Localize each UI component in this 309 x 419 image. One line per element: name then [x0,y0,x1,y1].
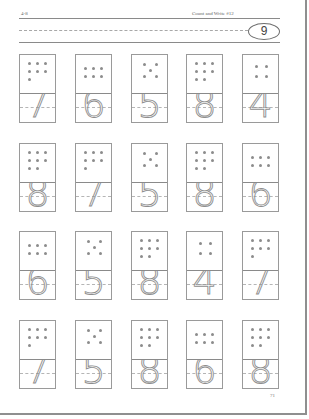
count-dot [265,65,268,68]
count-card: 6 [186,320,223,389]
count-dot [203,341,206,344]
traceable-numeral: 8 [20,183,55,212]
dot-count-area [76,232,111,271]
dot-count-area [76,321,111,360]
count-dot [265,75,268,78]
count-dot [195,341,198,344]
dot-count-area [132,144,167,183]
count-dot [203,78,206,81]
count-dot [195,333,198,336]
count-dot [100,151,103,154]
dot-count-area [76,144,111,183]
dot-count-area [132,321,167,360]
count-card: 8 [186,143,223,212]
count-card: 7 [19,320,56,389]
numeral-trace-area: 8 [187,94,222,123]
count-dot [209,242,212,245]
count-dot [93,246,96,249]
traceable-numeral: 4 [243,94,278,123]
count-dot [93,335,96,338]
count-dot [36,62,39,65]
numeral-trace-area: 8 [187,183,222,212]
dot-count-area [243,232,278,271]
worksheet-number-badge: 9 [248,23,280,40]
traceable-numeral: 6 [243,183,278,212]
count-dot [251,336,254,339]
count-dot [36,252,39,255]
numeral-trace-area: 6 [76,94,111,123]
count-dot [84,151,87,154]
traceable-numeral: 8 [132,271,167,300]
count-dot [44,70,47,73]
count-dot [211,70,214,73]
count-dot [100,75,103,78]
count-dot [36,328,39,331]
count-dot [87,252,90,255]
count-dot [36,167,39,170]
count-dot [84,159,87,162]
count-dot [267,247,270,250]
count-dot [28,252,31,255]
count-dot [92,159,95,162]
dot-count-area [132,55,167,94]
count-dot [99,329,102,332]
count-card: 8 [242,320,279,389]
count-card: 5 [75,320,112,389]
count-dot [44,159,47,162]
count-dot [259,239,262,242]
count-dot [251,156,254,159]
count-dot [36,159,39,162]
count-dot [259,156,262,159]
dot-count-area [243,144,278,183]
count-dot [143,75,146,78]
count-card: 5 [131,143,168,212]
count-dot [267,164,270,167]
traceable-numeral: 8 [187,94,222,123]
numeral-trace-area: 7 [20,360,55,389]
count-card: 7 [242,231,279,300]
worksheet-page: 4-8 Count and Write #12 9 76584875866584… [0,0,307,415]
numeral-trace-area: 8 [132,360,167,389]
count-dot [87,240,90,243]
count-dot [44,151,47,154]
count-dot [28,328,31,331]
count-dot [36,244,39,247]
traceable-numeral: 7 [76,183,111,212]
count-dot [28,244,31,247]
count-dot [36,336,39,339]
count-dot [92,67,95,70]
count-dot [140,336,143,339]
count-dot [211,159,214,162]
count-dot [209,252,212,255]
count-dot [203,70,206,73]
count-dot [99,240,102,243]
count-dot [211,151,214,154]
dot-count-area [187,321,222,360]
numeral-trace-area: 7 [243,271,278,300]
count-card: 5 [131,54,168,123]
count-dot [100,67,103,70]
count-dot [28,78,31,81]
count-dot [195,70,198,73]
count-dot [148,255,151,258]
numeral-trace-area: 8 [243,360,278,389]
count-dot [87,329,90,332]
count-card: 6 [19,231,56,300]
count-dot [148,239,151,242]
page-number: 71 [270,393,275,398]
count-dot [259,247,262,250]
traceable-numeral: 7 [243,271,278,300]
count-dot [140,344,143,347]
count-dot [143,152,146,155]
count-card: 8 [131,320,168,389]
count-dot [211,341,214,344]
count-dot [259,344,262,347]
header-rule-bottom [19,42,280,43]
count-card: 6 [242,143,279,212]
count-dot [148,344,151,347]
count-dot [44,244,47,247]
numeral-trace-area: 5 [132,183,167,212]
count-card: 4 [186,231,223,300]
traceable-numeral: 8 [187,183,222,212]
traceable-numeral: 5 [76,360,111,389]
